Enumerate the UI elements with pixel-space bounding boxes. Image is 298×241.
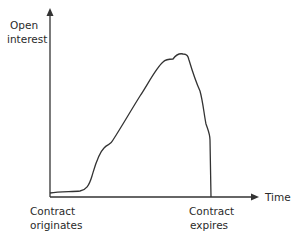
end-label-line2: expires bbox=[190, 218, 228, 232]
start-label-line1: Contract bbox=[30, 204, 75, 218]
x-axis-label: Time bbox=[265, 190, 291, 204]
open-interest-curve bbox=[50, 54, 211, 197]
start-label-line2: originates bbox=[30, 218, 82, 232]
x-axis-arrow-icon bbox=[251, 194, 259, 201]
y-axis-label-line2: interest bbox=[7, 32, 47, 46]
y-axis-arrow-icon bbox=[47, 8, 54, 16]
y-axis-label-line1: Open bbox=[10, 18, 38, 32]
end-label-line1: Contract bbox=[189, 204, 234, 218]
